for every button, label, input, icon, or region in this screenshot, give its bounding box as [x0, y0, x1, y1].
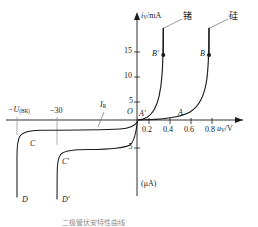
leader-line-reverse-current — [98, 112, 104, 127]
point-label-A-prime: A′ — [139, 110, 146, 118]
x-tick-label-0-2: 0.2 — [142, 126, 152, 134]
breakdown-voltage-symbol: −U — [8, 105, 19, 114]
breakdown-voltage-label: −U(BR) — [8, 106, 30, 114]
y-tick-label-10: 10 — [124, 72, 132, 80]
reverse-current-label: IR — [100, 101, 106, 109]
y-axis-label-unit: /mA — [147, 11, 161, 20]
breakdown-voltage-subscript: (BR) — [19, 108, 30, 114]
series-label-germanium: 锗 — [183, 12, 192, 21]
x-tick-label-0-4: 0.4 — [163, 126, 173, 134]
point-dot-B — [207, 53, 211, 57]
x-axis-ticks-negative — [17, 117, 57, 145]
point-label-D-prime: D′ — [62, 196, 70, 204]
reverse-current-subscript: R — [103, 103, 107, 109]
x-tick-label-minus30: −30 — [50, 107, 63, 115]
series-label-silicon: 硅 — [229, 12, 238, 21]
y-axis-label: iV/mA — [141, 12, 161, 20]
x-axis — [6, 117, 243, 123]
y-tick-label-15: 15 — [124, 47, 132, 55]
curve-germanium-forward — [138, 28, 163, 120]
point-label-B: B — [200, 50, 205, 58]
y-tick-label-minus5: −5 — [124, 143, 133, 151]
curve-silicon-forward — [138, 28, 209, 120]
x-axis-label-unit: /V — [225, 124, 233, 133]
diode-characteristic-figure: iV/mA uV/V O 15 10 5 −5 0.2 0.4 0.6 0.8 … — [0, 0, 258, 227]
figure-caption: 二极管伏安特性曲线 — [62, 217, 125, 227]
origin-label: O — [127, 108, 133, 116]
point-label-C: C — [30, 140, 35, 148]
x-axis-label: uV/V — [217, 125, 233, 133]
point-label-B-prime: B′ — [152, 50, 159, 58]
leader-line-germanium — [164, 19, 182, 28]
x-tick-label-0-8: 0.8 — [205, 126, 215, 134]
x-tick-label-0-6: 0.6 — [184, 126, 194, 134]
curve-silicon-reverse — [17, 122, 138, 198]
y-axis — [134, 12, 140, 196]
point-label-D: D — [22, 196, 28, 204]
point-label-C-prime: C′ — [62, 158, 69, 166]
microamp-unit-note: (μA) — [141, 180, 156, 188]
y-tick-label-5: 5 — [129, 97, 133, 105]
point-dot-B-prime — [161, 53, 165, 57]
point-label-A: A — [178, 109, 183, 117]
leader-line-silicon — [210, 19, 228, 28]
